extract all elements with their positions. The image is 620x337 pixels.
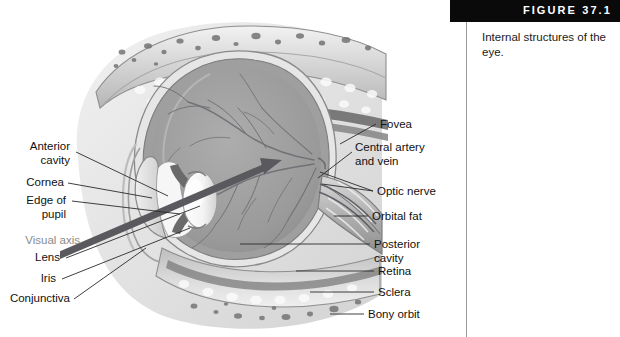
label-sclera: Sclera (378, 286, 411, 300)
label-posterior-cavity: Posterior cavity (374, 238, 420, 265)
label-orbital-fat: Orbital fat (372, 210, 422, 224)
label-fovea: Fovea (380, 118, 412, 132)
label-optic-nerve: Optic nerve (377, 185, 436, 199)
label-lens: Lens (6, 251, 60, 265)
label-bony-orbit: Bony orbit (368, 308, 420, 322)
figure-caption: Internal structures of the eye. (482, 30, 610, 60)
label-anterior-cavity: Anterior cavity (6, 140, 70, 167)
eye-cross-section-illustration (60, 8, 390, 337)
label-cornea: Cornea (6, 176, 64, 190)
label-edge-of-pupil: Edge of pupil (6, 194, 66, 221)
figure-page: FIGURE 37.1 Internal structures of the e… (0, 0, 620, 337)
label-visual-axis: Visual axis (6, 234, 80, 248)
label-retina: Retina (378, 265, 411, 279)
label-iris: Iris (6, 272, 56, 286)
label-conjunctiva: Conjunctiva (2, 292, 70, 306)
figure-header-bar: FIGURE 37.1 (450, 0, 620, 22)
figure-number-label: FIGURE 37.1 (523, 4, 612, 16)
rail-divider (466, 22, 467, 337)
label-central-artery-and-vein: Central artery and vein (355, 141, 425, 168)
